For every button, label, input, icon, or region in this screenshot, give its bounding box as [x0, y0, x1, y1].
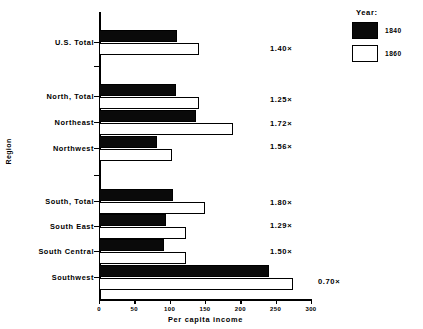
y-tick-separator — [94, 175, 100, 176]
y-axis-label: South East — [2, 222, 94, 231]
bar-1840 — [99, 189, 173, 201]
y-tick — [94, 42, 100, 43]
ratio-label: 1.25× — [270, 95, 292, 104]
y-axis-title: Region — [5, 130, 12, 174]
y-axis-label: South, Total — [2, 197, 94, 206]
ratio-label: 1.50× — [270, 247, 292, 256]
x-tick — [99, 299, 100, 304]
x-tick — [134, 299, 135, 304]
x-tick — [205, 299, 206, 304]
y-tick — [94, 201, 100, 202]
bar-1860 — [99, 202, 205, 214]
y-tick — [94, 277, 100, 278]
x-tick-label: 300 — [305, 306, 316, 312]
ratio-label: 1.72× — [270, 119, 292, 128]
legend-label-1860: 1860 — [385, 50, 402, 57]
bar-1860 — [99, 43, 199, 55]
x-tick-label: 50 — [131, 306, 138, 312]
x-tick-label: 250 — [270, 306, 281, 312]
ratio-label: 1.80× — [270, 198, 292, 207]
y-tick — [94, 251, 100, 252]
x-tick — [276, 299, 277, 304]
legend-swatch-1860 — [352, 45, 378, 62]
y-tick — [94, 226, 100, 227]
bar-1840 — [99, 110, 196, 122]
bar-1840 — [99, 265, 269, 277]
x-axis-title: Per capita income — [99, 315, 312, 324]
bar-1840 — [99, 30, 177, 42]
legend-label-1840: 1840 — [385, 27, 402, 34]
y-axis-labels: U.S. TotalNorth, TotalNortheastNorthwest… — [0, 0, 94, 329]
bar-1860 — [99, 97, 199, 109]
x-tick-label: 0 — [97, 306, 101, 312]
bar-1840 — [99, 136, 157, 148]
legend-title: Year: — [356, 8, 422, 17]
bar-1840 — [99, 84, 176, 96]
y-tick — [94, 96, 100, 97]
y-axis-label: Northwest — [2, 144, 94, 153]
legend-entry-1840: 1840 — [352, 22, 422, 39]
bar-1840 — [99, 214, 166, 226]
x-tick-label: 150 — [199, 306, 210, 312]
legend-entry-1860: 1860 — [352, 45, 422, 62]
x-tick-label: 200 — [235, 306, 246, 312]
ratio-label: 0.70× — [318, 277, 340, 286]
legend: Year: 1840 1860 — [352, 8, 422, 68]
x-tick — [311, 299, 312, 304]
bar-1840 — [99, 239, 164, 251]
bar-1860 — [99, 252, 186, 264]
y-tick — [94, 148, 100, 149]
bar-1860 — [99, 123, 233, 135]
ratio-label: 1.56× — [270, 142, 292, 151]
x-tick — [240, 299, 241, 304]
legend-swatch-1840 — [352, 22, 378, 39]
y-axis-label: North, Total — [2, 92, 94, 101]
ratio-label: 1.40× — [270, 44, 292, 53]
x-tick — [170, 299, 171, 304]
y-axis-label: U.S. Total — [2, 38, 94, 47]
y-axis-label: Southwest — [2, 273, 94, 282]
y-tick-separator — [94, 66, 100, 67]
chart-figure: U.S. TotalNorth, TotalNortheastNorthwest… — [0, 0, 423, 329]
ratio-label: 1.29× — [270, 221, 292, 230]
y-axis-label: Northeast — [2, 118, 94, 127]
x-tick-label: 100 — [164, 306, 175, 312]
y-tick — [94, 122, 100, 123]
bar-1860 — [99, 149, 172, 161]
y-axis-label: South Central — [2, 247, 94, 256]
bar-1860 — [99, 227, 186, 239]
bar-1860 — [99, 278, 293, 290]
